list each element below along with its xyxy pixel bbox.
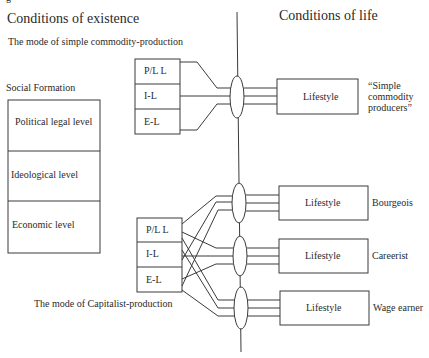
header-conditions-of-existence: Conditions of existence: [7, 12, 139, 26]
careerist-ellipse: [233, 236, 247, 276]
mode-capitalist: The mode of Capitalist-production: [34, 299, 173, 309]
header-conditions-of-life: Conditions of life: [279, 9, 378, 23]
upper-stack-el: E-L: [144, 117, 160, 127]
lower-connector: [182, 250, 235, 308]
class-label-line: commodity: [368, 91, 414, 102]
lower-stack-pll: P/L L: [146, 225, 169, 235]
class-label-line: producers”: [368, 102, 414, 113]
class-label-line: “Simple: [368, 80, 414, 91]
mode-simple-commodity: The mode of simple commodity-production: [8, 37, 183, 47]
lower-stack-il: I-L: [146, 249, 159, 259]
level-economic: Economic level: [12, 220, 74, 230]
class-label-simple-commodity-producers: “Simple commodity producers”: [368, 80, 414, 113]
upper-stack-pll: P/L L: [144, 66, 167, 76]
level-political-legal: Political legal level: [15, 117, 92, 127]
upper-connector: [180, 104, 232, 130]
upper-stack-il: I-L: [144, 91, 157, 101]
lower-stack-el: E-L: [146, 275, 162, 285]
lower-connector: [182, 264, 234, 279]
social-formation-title: Social Formation: [6, 83, 75, 93]
lower-connector: [182, 232, 234, 248]
lifestyle-label: Lifestyle: [305, 251, 341, 261]
lower-connector: [182, 290, 235, 316]
upper-connector: [180, 62, 232, 88]
figure-fragment: g: [6, 0, 11, 3]
class-label-bourgeois: Bourgeois: [372, 198, 413, 208]
class-label-careerist: Careerist: [372, 251, 408, 261]
bourgeois-ellipse: [232, 183, 246, 223]
lifestyle-label: Lifestyle: [306, 303, 342, 313]
lifestyle-label: Lifestyle: [305, 198, 341, 208]
wage-earner-ellipse: [234, 287, 248, 329]
top-ellipse: [230, 76, 244, 118]
lifestyle-label: Lifestyle: [303, 92, 339, 102]
level-ideological: Ideological level: [11, 170, 78, 180]
class-label-wage-earner: Wage earner: [373, 303, 423, 313]
